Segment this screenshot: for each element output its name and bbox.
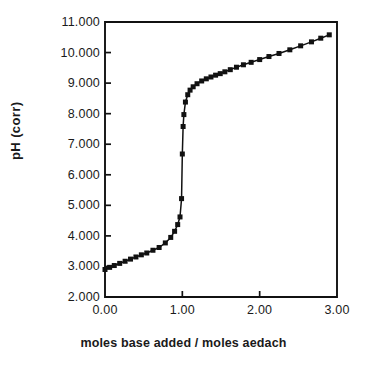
x-axis-title: moles base added / moles aedach xyxy=(0,336,367,350)
x-axis-tick-labels: 0.001.002.003.00 xyxy=(0,0,367,368)
x-tick-label: 0.00 xyxy=(75,303,135,317)
x-tick-label: 3.00 xyxy=(307,303,367,317)
titration-chart: pH (corr) 2.0003.0004.0005.0006.0007.000… xyxy=(0,0,367,368)
x-tick-label: 2.00 xyxy=(230,303,290,317)
x-tick-label: 1.00 xyxy=(152,303,212,317)
